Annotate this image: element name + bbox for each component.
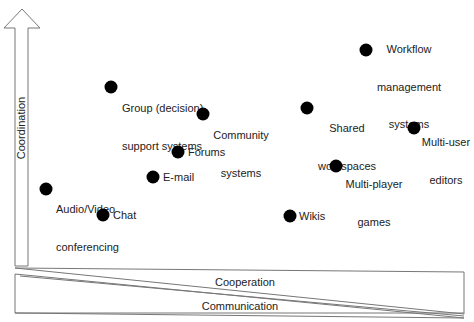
workflow-label-line1: Workflow [372, 43, 446, 56]
audio-video-dot-icon [40, 183, 53, 196]
multi-user-editors-label: Multi-user editors [418, 111, 474, 211]
multi-user-editors-label-line1: Multi-user [418, 136, 474, 149]
community-label-line2: systems [208, 167, 274, 180]
workflow-dot-icon [360, 44, 373, 57]
shared-workspaces-dot-icon [301, 102, 314, 115]
audio-video-label-line1: Audio/Video [56, 203, 119, 216]
forums-label: Forums [188, 146, 225, 159]
multi-user-editors-label-line2: editors [418, 174, 474, 187]
forums-dot-icon [172, 146, 185, 159]
multi-player-games-dot-icon [330, 160, 343, 173]
group-support-label-line1: Group (decision) [122, 102, 203, 115]
communication-band-label: Communication [202, 300, 278, 312]
group-support-label: Group (decision) support systems [122, 77, 203, 177]
cooperation-band-label: Cooperation [215, 276, 275, 288]
community-label-line1: Community [208, 129, 274, 142]
multi-player-games-label-line1: Multi-player [342, 178, 406, 191]
multi-player-games-label: Multi-player games [342, 153, 406, 253]
groupware-classification-diagram: Coordination Cooperation Communication W… [0, 0, 474, 322]
email-label: E-mail [163, 171, 194, 184]
shared-workspaces-label-line1: Shared [316, 122, 378, 135]
wikis-dot-icon [284, 210, 297, 223]
workflow-label-line2: management [372, 81, 446, 94]
chat-label: Chat [113, 209, 136, 222]
audio-video-label: Audio/Video conferencing [56, 178, 119, 278]
audio-video-label-line2: conferencing [56, 241, 119, 254]
multi-player-games-label-line2: games [342, 216, 406, 229]
chat-dot-icon [97, 209, 110, 222]
group-support-dot-icon [105, 81, 118, 94]
coordination-axis-label: Coordination [15, 97, 27, 159]
email-dot-icon [147, 171, 160, 184]
wikis-label: Wikis [299, 210, 325, 223]
